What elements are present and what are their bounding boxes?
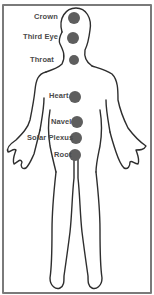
chakra-dot-third-eye [67, 32, 79, 44]
chakra-dot-heart [69, 91, 81, 103]
chakra-label-navel: Navel [51, 118, 72, 126]
chakra-dot-throat [69, 55, 79, 65]
chakra-label-heart: Heart [49, 92, 69, 100]
chakra-label-solar-plexus: Solar Plexus [27, 134, 73, 142]
chakra-label-throat: Throat [30, 56, 54, 64]
chakra-label-root: Root [54, 151, 71, 159]
chakra-label-third-eye: Third Eye [23, 33, 58, 41]
chakra-label-crown: Crown [34, 13, 58, 21]
chakra-dot-crown [68, 12, 80, 24]
human-body-outline [0, 0, 154, 295]
chakra-dot-navel [71, 116, 83, 128]
